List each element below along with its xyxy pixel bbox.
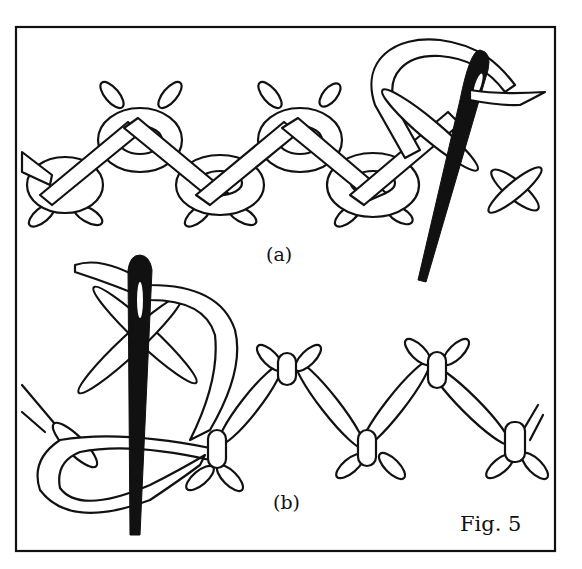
panel-a-label: (a) [266, 245, 292, 264]
figure-caption: Fig. 5 [460, 514, 521, 535]
panel-b-label: (b) [273, 493, 300, 512]
stitch-figure [0, 0, 582, 569]
